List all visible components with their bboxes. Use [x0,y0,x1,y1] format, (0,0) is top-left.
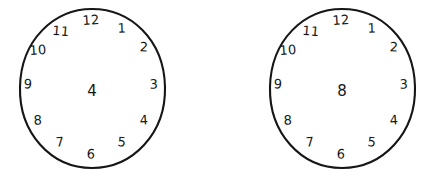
clock-right-hour-11: 11 [302,24,320,38]
clock-left-hour-10: 10 [29,43,47,57]
clock-left-hour-9: 9 [23,77,32,90]
clock-left-hour-12: 12 [82,13,100,27]
clock-left-hour-7: 7 [55,135,64,149]
clock-right-hour-10: 10 [279,43,297,57]
clock-right-hour-6: 6 [336,147,345,160]
clock-right-hour-5: 5 [367,135,377,149]
clock-left-hour-8: 8 [33,113,42,126]
clock-right-hour-9: 9 [273,77,282,90]
clock-left-hour-5: 5 [117,135,127,149]
clock-left-hour-2: 2 [139,40,148,53]
clock-left-hour-11: 11 [52,24,70,38]
clock-right-hour-2: 2 [389,40,398,53]
clock-left-hour-4: 4 [139,113,148,127]
clock-right-hour-12: 12 [332,13,350,27]
clock-left-hour-1: 1 [117,21,126,34]
worksheet-canvas: 4 12 1 2 3 4 5 6 7 8 9 10 11 8 12 1 2 3 … [0,0,437,177]
clock-right-hour-1: 1 [367,21,376,34]
clock-face-left: 4 12 1 2 3 4 5 6 7 8 9 10 11 [17,7,167,171]
clock-right-hour-4: 4 [389,113,398,127]
clock-right-hour-7: 7 [305,135,314,149]
clock-face-right: 8 12 1 2 3 4 5 6 7 8 9 10 11 [267,7,417,171]
clock-right-hour-8: 8 [283,113,292,126]
clock-right-center-number: 8 [337,84,347,99]
clock-left-hour-3: 3 [149,77,158,90]
clock-right-hour-3: 3 [399,77,408,90]
clock-left-center-number: 4 [87,84,97,99]
clock-left-hour-6: 6 [86,147,95,160]
